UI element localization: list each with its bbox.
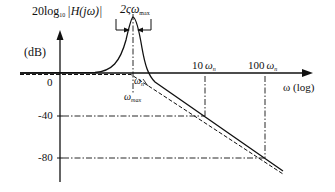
bandwidth-label: 2ςωmax bbox=[120, 3, 150, 16]
x-axis-arrow-icon bbox=[302, 69, 313, 77]
bandwidth-bracket bbox=[116, 19, 151, 30]
x-tick-10wn: 10ωn bbox=[192, 60, 216, 72]
x-axis-label: ω (log) bbox=[283, 82, 314, 93]
y-axis-unit: (dB) bbox=[24, 46, 46, 58]
y-axis-arrow-icon bbox=[57, 30, 64, 40]
plot-canvas bbox=[0, 0, 335, 192]
y-axis-label: 20log10|H(jω)| bbox=[32, 5, 102, 18]
guide-lines bbox=[63, 14, 265, 158]
y-tick-minus40: -40 bbox=[38, 110, 53, 121]
omega-n-label: ωn bbox=[134, 76, 144, 87]
omega-max-label: ωmax bbox=[124, 92, 141, 103]
x-tick-100wn: 100ωn bbox=[248, 60, 277, 72]
bode-diagram: 20log10|H(jω)| (dB) 0 -40 -80 2ςωmax ωn … bbox=[0, 0, 335, 192]
y-tick-minus80: -80 bbox=[38, 152, 53, 163]
y-tick-0: 0 bbox=[47, 77, 53, 88]
